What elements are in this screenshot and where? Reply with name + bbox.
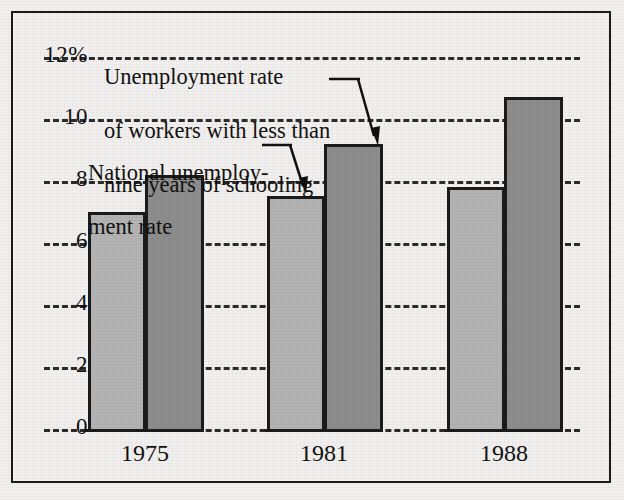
annotation-low-schooling-line1: Unemployment rate [104,63,330,90]
annotation-national-rate: National unemploy- ment rate [88,132,269,267]
ytick-label-4: 4 [76,291,88,314]
ytick-label-2: 2 [76,353,88,376]
annotation-national-rate-line2: ment rate [88,213,269,240]
xtick-label-1988: 1988 [445,440,563,466]
bar-1988-low-schooling-rate [504,97,563,432]
ytick-label-10: 10 [64,105,88,128]
xtick-label-1981: 1981 [265,440,383,466]
bar-1981-national-rate [267,196,325,432]
leader-line-low-schooling [329,79,380,146]
plot-area: 12% 10 8 6 4 2 0 197 [0,0,624,500]
ytick-label-6: 6 [76,229,88,252]
bar-1981-low-schooling-rate [324,144,383,432]
chart-page: 12% 10 8 6 4 2 0 197 [0,0,624,500]
bar-1988-national-rate [447,187,505,432]
annotation-national-rate-line1: National unemploy- [88,159,269,186]
ytick-label-12: 12% [44,43,88,66]
ytick-label-0: 0 [76,415,88,438]
xtick-label-1975: 1975 [86,440,204,466]
ytick-label-8: 8 [76,167,88,190]
